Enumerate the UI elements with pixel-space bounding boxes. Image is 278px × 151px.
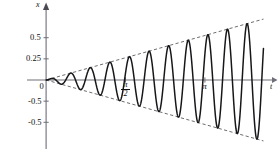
x-tick-label-1: π [202, 82, 206, 91]
y-tick-label-4: -0.5 [28, 118, 41, 127]
oscillation-curve [46, 24, 263, 139]
x-axis-label: t [270, 83, 272, 91]
y-tick-label-2: 0 [40, 82, 44, 91]
y-tick-label-1: 0.25 [26, 54, 41, 63]
y-axis-label: x [36, 1, 40, 9]
figure-container: x t 0.50.250-0.5-0.5 π2π [0, 0, 278, 151]
x-axis-arrow [272, 77, 278, 83]
y-axis-arrow [43, 3, 49, 11]
x-tick-label-0: π2 [121, 81, 130, 98]
y-tick-label-0: 0.5 [30, 33, 41, 42]
y-tick-label-3: -0.5 [28, 97, 41, 106]
fraction-numerator: π [121, 81, 130, 89]
resonance-plot [0, 0, 278, 151]
fraction-denominator: 2 [121, 90, 130, 98]
axes-group [27, 3, 278, 150]
